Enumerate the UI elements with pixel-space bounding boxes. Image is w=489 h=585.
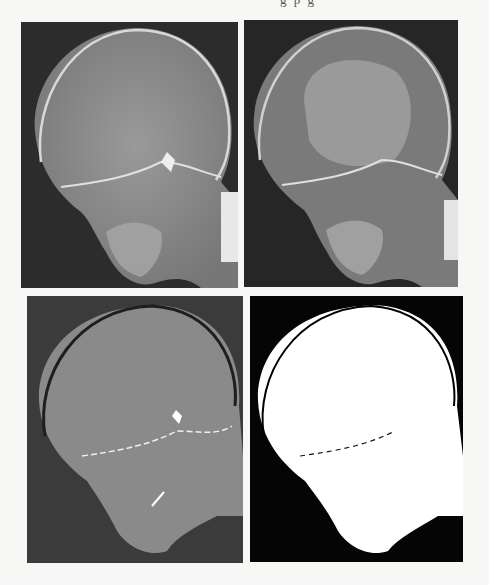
skull-xray-original: [21, 22, 238, 288]
skull-xray-binary-mask: [250, 296, 463, 562]
skull-xray-enhanced: [244, 20, 458, 287]
skull-xray-segmented: [27, 296, 243, 563]
cutoff-caption-text: g p g: [280, 0, 316, 8]
